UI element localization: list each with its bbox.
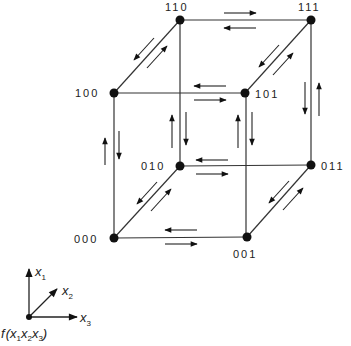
node-label-011: 011	[321, 160, 345, 172]
node-label-101: 101	[255, 88, 279, 100]
cube-svg: 000 001 010 011 100 101 110 111 x1 x2 x3…	[0, 0, 351, 346]
edge-100-110	[114, 20, 180, 93]
edge-000-001	[114, 237, 247, 238]
arrow-down-left-icon	[269, 181, 289, 203]
arrow-down-left-icon	[134, 38, 154, 60]
transition-arrows	[105, 13, 319, 244]
node-label-001: 001	[233, 248, 257, 260]
node-label-110: 110	[165, 1, 189, 13]
axis-x2-arrow-icon	[29, 289, 57, 317]
node-000	[110, 234, 119, 243]
function-label: f(x1x2x3)	[1, 326, 47, 343]
node-101	[241, 89, 250, 98]
axes-legend: x1 x2 x3 f(x1x2x3)	[1, 264, 92, 343]
axis-x1-label: x1	[34, 264, 47, 282]
cube-edges	[114, 20, 311, 238]
arrow-up-right-icon	[283, 188, 303, 210]
node-label-000: 000	[74, 233, 98, 245]
edge-001-011	[247, 165, 311, 237]
arrow-down-left-icon	[259, 45, 279, 67]
edge-101-111	[245, 20, 311, 93]
arrow-up-right-icon	[273, 53, 293, 75]
node-010	[176, 162, 185, 171]
arrow-down-left-icon	[137, 182, 157, 204]
node-111	[307, 16, 316, 25]
arrow-up-right-icon	[147, 46, 167, 68]
node-001	[243, 233, 252, 242]
axis-x3-label: x3	[79, 310, 92, 328]
cube-diagram: 000 001 010 011 100 101 110 111 x1 x2 x3…	[0, 0, 351, 346]
axis-x2-label: x2	[61, 283, 74, 301]
origin-dot	[26, 314, 32, 320]
node-label-100: 100	[75, 87, 99, 99]
arrow-up-right-icon	[151, 189, 171, 211]
edge-000-010	[114, 166, 180, 238]
node-100	[110, 89, 119, 98]
node-110	[176, 16, 185, 25]
node-label-010: 010	[141, 160, 165, 172]
node-011	[307, 161, 316, 170]
node-label-111: 111	[298, 1, 321, 13]
